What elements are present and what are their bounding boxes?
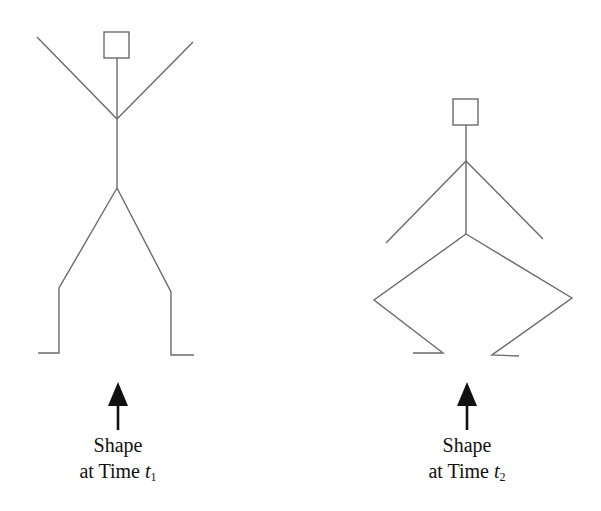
arms	[386, 161, 543, 243]
caption-line1: Shape	[38, 432, 198, 458]
arrow-up-icon	[457, 382, 477, 430]
caption-t1: Shape at Time t1	[38, 432, 198, 490]
arrow-up-icon	[108, 382, 128, 430]
caption-t2: Shape at Time t2	[387, 432, 547, 490]
stick-figure-t2	[374, 99, 572, 356]
arms	[37, 37, 193, 119]
right-leg	[466, 234, 572, 356]
left-leg	[374, 234, 466, 353]
head-square	[453, 99, 478, 125]
caption-line2: at Time t1	[38, 458, 198, 490]
head-square	[104, 32, 129, 58]
diagram-canvas: Shape at Time t1 Shape at Time t2	[0, 0, 601, 511]
stick-figure-t1	[37, 32, 194, 355]
right-leg	[117, 188, 194, 355]
left-leg	[38, 188, 117, 353]
caption-line2: at Time t2	[387, 458, 547, 490]
caption-line1: Shape	[387, 432, 547, 458]
